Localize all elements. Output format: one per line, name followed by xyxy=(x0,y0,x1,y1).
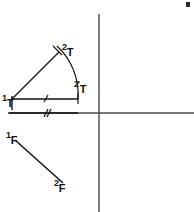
segment-1F-to-2F xyxy=(15,140,63,183)
label-point-2F: 2F xyxy=(54,179,65,195)
figure-canvas xyxy=(0,0,194,212)
label-2F-base: F xyxy=(59,182,66,194)
label-point-2T: 2T xyxy=(62,43,73,59)
label-1T-base: T xyxy=(7,97,14,109)
label-point-1T: 1T xyxy=(2,94,13,110)
label-point-1F: 1F xyxy=(6,131,17,147)
geometry-figure: 1T 2T 2′T 1F 2F xyxy=(0,0,194,212)
label-point-2prime-T: 2′T xyxy=(74,80,86,96)
label-1F-base: F xyxy=(11,134,18,146)
label-2T-base: T xyxy=(67,46,74,58)
corner-mark xyxy=(186,2,190,7)
ray-1T-to-2T xyxy=(12,52,59,99)
label-2primeT-base: T xyxy=(80,83,87,95)
